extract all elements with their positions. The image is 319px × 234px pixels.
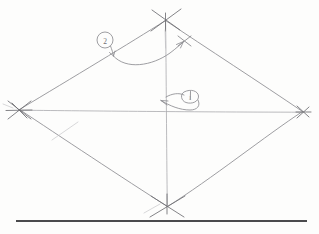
callout-2-label: 2: [103, 37, 107, 46]
drawing-canvas: 2 1: [0, 0, 319, 234]
hand-drawn-diagram: 2 1: [0, 0, 319, 234]
paper-background: [0, 0, 319, 234]
callout-1-label: 1: [188, 94, 192, 102]
